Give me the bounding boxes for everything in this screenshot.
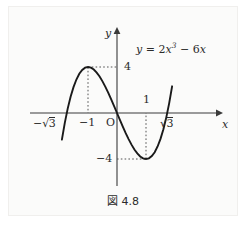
tick-label-sqrt3: √3 (160, 117, 173, 129)
sqrt-glyph: √3 (160, 117, 173, 129)
tick-label-neg-one: −1 (79, 117, 95, 128)
figure-container: y x O −√3 −1 1 √3 4 −4 y = 2x3 − 6x 図 4.… (0, 0, 246, 231)
equation-var2: x (200, 43, 206, 56)
tick-label-neg-four: −4 (96, 153, 112, 164)
y-axis-label: y (105, 28, 111, 39)
equation-minus: − (176, 43, 192, 56)
origin-label: O (106, 117, 115, 128)
caption-number: 4.8 (122, 195, 140, 208)
x-axis-arrow (216, 110, 223, 117)
equation-coef-linear: 6 (193, 43, 200, 56)
tick-label-one: 1 (143, 94, 150, 105)
tick-label-four: 4 (124, 61, 131, 72)
sqrt-glyph: √3 (42, 117, 55, 129)
equation-equals: = (142, 43, 158, 56)
y-axis-arrow (114, 27, 121, 34)
minus-glyph: − (33, 117, 42, 130)
x-axis-label: x (222, 119, 228, 130)
equation-label: y = 2x3 − 6x (136, 42, 206, 55)
caption-prefix: 図 (107, 195, 118, 208)
figure-caption: 図 4.8 (0, 192, 246, 208)
tick-label-neg-sqrt3: −√3 (33, 117, 55, 129)
